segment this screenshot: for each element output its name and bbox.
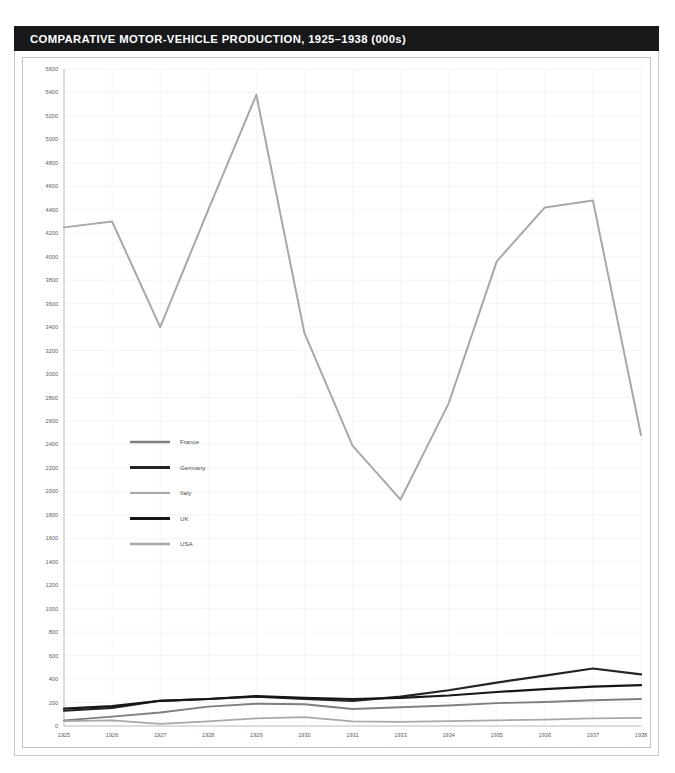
y-tick-label: 3000 [46,371,58,377]
y-tick-label: 800 [49,629,58,635]
y-tick-label: 1200 [46,582,58,588]
y-tick-label: 2000 [46,488,58,494]
y-tick-label: 0 [55,723,58,729]
chart-title-band: COMPARATIVE MOTOR-VEHICLE PRODUCTION, 19… [14,26,659,51]
y-tick-label: 4800 [46,160,58,166]
x-tick-label: 1925 [58,732,70,738]
legend-label-italy: Italy [180,489,192,496]
y-tick-label: 2400 [46,441,58,447]
y-tick-label: 4200 [46,230,58,236]
y-tick-label: 400 [49,676,58,682]
y-tick-label: 4400 [46,207,58,213]
x-tick-label: 1931 [346,732,358,738]
x-tick-label: 1935 [491,732,503,738]
y-tick-label: 1800 [46,512,58,518]
y-tick-label: 3800 [46,277,58,283]
chart-legend: FranceGermanyItalyUKUSA [130,438,206,547]
y-tick-label: 600 [49,653,58,659]
y-tick-label: 1400 [46,559,58,565]
y-tick-label: 5200 [46,113,58,119]
legend-label-usa: USA [180,540,194,547]
chart-canvas: 0200400600800100012001400160018002000220… [22,57,651,748]
y-tick-label: 1000 [46,606,58,612]
line-chart: 0200400600800100012001400160018002000220… [22,57,651,748]
x-tick-label: 1938 [635,732,647,738]
y-tick-label: 4600 [46,183,58,189]
y-tick-label: 2200 [46,465,58,471]
page-title: COMPARATIVE MOTOR-VEHICLE PRODUCTION, 19… [14,33,406,45]
x-axis-ticks: 1925192619271928192919301931193319341935… [58,732,647,738]
legend-label-france: France [180,438,200,445]
y-tick-label: 3200 [46,348,58,354]
y-tick-label: 3400 [46,324,58,330]
legend-label-uk: UK [180,515,189,522]
chart-page: COMPARATIVE MOTOR-VEHICLE PRODUCTION, 19… [0,0,675,773]
x-tick-label: 1926 [106,732,118,738]
y-tick-label: 5600 [46,66,58,72]
y-tick-label: 4000 [46,254,58,260]
x-tick-label: 1937 [587,732,599,738]
y-tick-label: 2800 [46,395,58,401]
x-tick-label: 1933 [394,732,406,738]
legend-label-germany: Germany [180,464,206,471]
x-tick-label: 1928 [202,732,214,738]
y-tick-label: 2600 [46,418,58,424]
y-tick-label: 3600 [46,301,58,307]
y-tick-label: 200 [49,700,58,706]
x-tick-label: 1927 [154,732,166,738]
x-tick-label: 1930 [298,732,310,738]
x-tick-label: 1934 [442,732,454,738]
y-axis-ticks: 0200400600800100012001400160018002000220… [46,66,58,729]
x-tick-label: 1929 [250,732,262,738]
x-tick-label: 1936 [539,732,551,738]
y-tick-label: 5400 [46,89,58,95]
y-tick-label: 5000 [46,136,58,142]
y-tick-label: 1600 [46,535,58,541]
